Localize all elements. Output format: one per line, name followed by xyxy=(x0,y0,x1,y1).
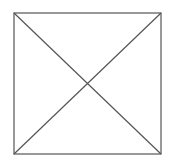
diagram-canvas xyxy=(0,0,170,167)
crossed-square-diagram xyxy=(0,0,170,167)
